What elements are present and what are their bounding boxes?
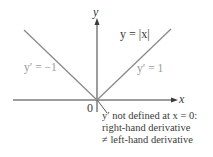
x-axis-label: x	[179, 93, 184, 105]
annotation: y′ not defined at x = 0: right-hand deri…	[102, 110, 197, 146]
function-label: y = |x|	[120, 28, 150, 40]
x-axis-arrow-icon	[171, 98, 178, 103]
y-axis-arrow-icon	[95, 18, 100, 25]
absolute-value-derivative-figure: y x 0 y = |x| y′ = −1 y′ = 1 y′ not defi…	[0, 0, 213, 157]
annotation-line-3: ≠ left-hand derivative	[102, 134, 197, 146]
annotation-line-1: y′ not defined at x = 0:	[102, 110, 197, 122]
origin-label: 0	[87, 102, 93, 114]
y-axis-label: y	[93, 6, 98, 18]
annotation-line-2: right-hand derivative	[102, 122, 197, 134]
left-derivative-label: y′ = −1	[24, 62, 57, 74]
right-derivative-label: y′ = 1	[137, 63, 163, 75]
